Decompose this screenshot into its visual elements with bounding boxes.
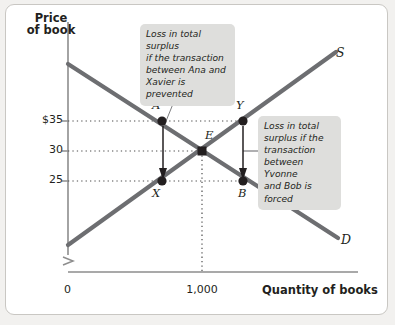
callout-ana-line2: if the transaction xyxy=(146,53,224,63)
xtick-label-1000: 1,000 xyxy=(180,284,224,296)
ytick-label-30: 30 xyxy=(23,144,63,156)
data-point-A xyxy=(157,116,166,125)
y-axis-title-line2: of book xyxy=(27,23,76,37)
demand-curve-label: D xyxy=(341,233,351,247)
xtick-label-origin: 0 xyxy=(64,284,71,296)
ytick-label-25: 25 xyxy=(23,174,63,186)
callout-ana-xavier: Loss in total surplus if the transaction… xyxy=(140,24,235,106)
axis-break-icon xyxy=(63,257,73,265)
chart-page: Price of book Quantity of books $35 30 2… xyxy=(0,0,395,325)
y-axis-title: Price of book xyxy=(18,12,84,37)
callout-yvonne-line3: transaction xyxy=(264,145,315,155)
callout-yvonne-line1: Loss in total xyxy=(264,121,319,131)
callout-yvonne-line4: between Yvonne xyxy=(264,157,303,179)
ytick-label-35: $35 xyxy=(23,114,63,126)
data-point-E xyxy=(198,147,207,156)
supply-curve-label: S xyxy=(336,46,345,60)
point-label-Y: Y xyxy=(236,99,244,111)
callout-ana-line1: Loss in total surplus xyxy=(146,29,201,51)
point-label-B: B xyxy=(238,187,246,199)
loss-arrow-yvonne-bob xyxy=(239,126,247,180)
loss-arrow-ana-xavier xyxy=(159,126,167,180)
data-point-Y xyxy=(238,116,247,125)
point-label-E: E xyxy=(205,129,213,141)
callout-yvonne-bob: Loss in total surplus if the transaction… xyxy=(258,116,341,210)
callout-ana-line3: between Ana and xyxy=(146,65,226,75)
callout-yvonne-line2: surplus if the xyxy=(264,133,323,143)
x-axis-title: Quantity of books xyxy=(262,284,378,296)
data-point-B xyxy=(238,176,247,185)
data-point-X xyxy=(157,176,166,185)
callout-yvonne-line5: and Bob is forced xyxy=(264,181,312,203)
point-label-X: X xyxy=(152,187,160,199)
callout-ana-line4: Xavier is prevented xyxy=(146,77,193,99)
